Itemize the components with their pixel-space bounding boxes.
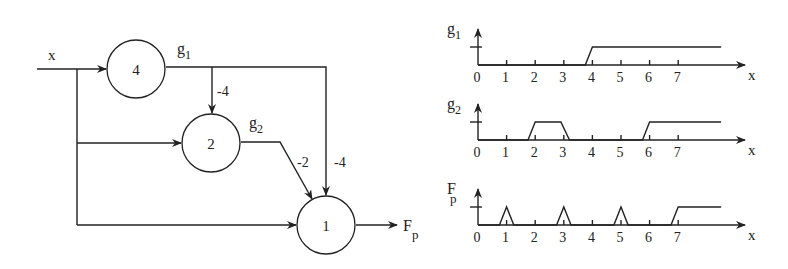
node-4-threshold: 4 bbox=[132, 62, 140, 78]
input-label: x bbox=[48, 47, 56, 63]
x-tick-label: 2 bbox=[531, 230, 538, 245]
x-tick-label: 0 bbox=[474, 145, 481, 160]
x-tick-label: 0 bbox=[474, 70, 481, 85]
edge-g2-to-node1 bbox=[241, 142, 312, 199]
x-axis-label: x bbox=[748, 67, 756, 83]
response-curve bbox=[478, 207, 721, 225]
x-tick-label: 7 bbox=[674, 145, 681, 160]
threshold-network-figure: x 4 2 1 g1 g2 -4 -2 -4 Fp 01234567xg1012… bbox=[0, 0, 788, 269]
network-diagram: x 4 2 1 g1 g2 -4 -2 -4 Fp bbox=[37, 40, 418, 254]
y-axis-label: g1 bbox=[447, 20, 461, 42]
response-curve bbox=[478, 122, 721, 140]
x-tick-label: 1 bbox=[502, 145, 509, 160]
weight-g2-node1: -2 bbox=[297, 155, 309, 170]
x-axis-label: x bbox=[748, 142, 756, 158]
weight-g1-node2: -4 bbox=[217, 84, 229, 99]
x-tick-label: 5 bbox=[617, 70, 624, 85]
x-tick-label: 3 bbox=[559, 70, 566, 85]
x-tick-label: 6 bbox=[645, 230, 652, 245]
x-tick-label: 3 bbox=[559, 230, 566, 245]
weight-g1-node1: -4 bbox=[334, 155, 346, 170]
x-axis-label: x bbox=[748, 227, 756, 243]
x-tick-label: 2 bbox=[531, 145, 538, 160]
response-plots: 01234567xg101234567xg201234567xFp bbox=[447, 20, 756, 245]
x-tick-label: 4 bbox=[588, 145, 595, 160]
x-tick-label: 1 bbox=[502, 70, 509, 85]
x-tick-label: 4 bbox=[588, 230, 595, 245]
plot-g1: 01234567xg1 bbox=[447, 20, 756, 85]
g1-label: g1 bbox=[177, 40, 191, 62]
x-tick-label: 1 bbox=[502, 230, 509, 245]
x-tick-label: 5 bbox=[617, 145, 624, 160]
x-tick-label: 4 bbox=[588, 70, 595, 85]
x-tick-label: 7 bbox=[674, 230, 681, 245]
plot-g2: 01234567xg2 bbox=[447, 95, 756, 160]
x-tick-label: 7 bbox=[674, 70, 681, 85]
g2-label: g2 bbox=[249, 114, 263, 136]
plot-Fp: 01234567xFp bbox=[447, 180, 756, 245]
x-tick-label: 3 bbox=[559, 145, 566, 160]
y-axis-label: g2 bbox=[447, 95, 461, 117]
x-tick-label: 2 bbox=[531, 70, 538, 85]
y-axis-label: Fp bbox=[447, 180, 456, 206]
x-tick-label: 5 bbox=[617, 230, 624, 245]
node-1-threshold: 1 bbox=[322, 218, 330, 234]
node-2-threshold: 2 bbox=[207, 136, 215, 152]
response-curve bbox=[478, 47, 721, 65]
output-label: Fp bbox=[403, 217, 418, 242]
x-tick-label: 0 bbox=[474, 230, 481, 245]
x-tick-label: 6 bbox=[645, 145, 652, 160]
x-tick-label: 6 bbox=[645, 70, 652, 85]
